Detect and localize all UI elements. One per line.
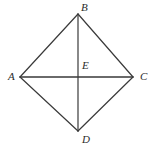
- vertex-label-a: A: [8, 71, 15, 82]
- segment-cd: [78, 77, 133, 131]
- geometry-figure: A B C D E: [0, 0, 155, 148]
- figure-canvas: [0, 0, 155, 148]
- vertex-label-d: D: [82, 134, 90, 145]
- segment-da: [20, 77, 78, 131]
- segment-ab: [20, 14, 78, 77]
- vertex-label-b: B: [81, 2, 88, 13]
- vertex-label-c: C: [140, 71, 147, 82]
- vertex-label-e: E: [82, 60, 89, 71]
